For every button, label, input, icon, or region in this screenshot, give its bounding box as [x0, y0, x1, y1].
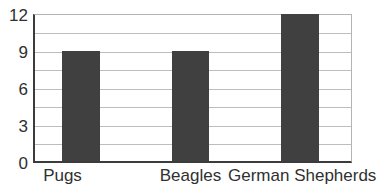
y-axis-tick-6: 6: [0, 81, 28, 98]
bar-beagles[interactable]: [172, 51, 209, 161]
y-axis-tick-3: 3: [0, 118, 28, 135]
bar-german-shepherds[interactable]: [281, 14, 319, 161]
y-axis-tick-9: 9: [0, 44, 28, 61]
bar-pugs[interactable]: [62, 51, 100, 161]
x-axis-label-beagles: Beagles: [158, 166, 223, 185]
bar-chart: 12 9 6 3 0 Pugs Beagles German Shepherds: [0, 0, 379, 191]
x-axis-label-german-shepherds: German Shepherds: [228, 166, 376, 185]
plot-area: [33, 14, 352, 163]
x-axis-label-pugs: Pugs: [30, 166, 95, 185]
y-axis-tick-12: 12: [0, 7, 28, 24]
y-axis-tick-0: 0: [0, 155, 28, 172]
